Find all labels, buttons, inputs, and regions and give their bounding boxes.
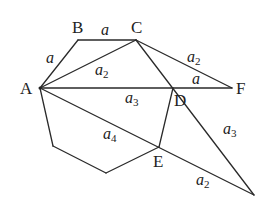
length-label-EG: a2 — [196, 171, 210, 190]
segment-A-H1 — [40, 88, 53, 146]
point-label-F: F — [236, 79, 245, 98]
length-label-DG: a3 — [223, 120, 237, 139]
point-label-B: B — [72, 18, 83, 37]
point-label-C: C — [131, 18, 142, 37]
point-label-E: E — [153, 152, 163, 171]
point-label-A: A — [20, 79, 33, 98]
length-label-AD: a3 — [125, 89, 139, 108]
length-label-AC: a2 — [95, 61, 109, 80]
length-label-AE: a4 — [103, 125, 117, 144]
segment-H2-E — [106, 147, 159, 173]
length-label-DF: a — [192, 70, 200, 87]
segment-AC — [40, 40, 136, 88]
length-label-BC: a — [101, 21, 109, 38]
length-label-CF: a2 — [187, 48, 201, 67]
vertex-A-dot — [39, 87, 42, 90]
point-label-D: D — [174, 91, 186, 110]
segment-CF — [136, 40, 232, 88]
segment-DE — [159, 88, 173, 147]
geometry-diagram: A B C D F E a a a2 a2 a a3 a4 a3 a2 — [0, 0, 262, 208]
segment-AG — [40, 88, 254, 195]
length-label-AB: a — [46, 49, 54, 66]
segment-H1-H2 — [53, 146, 106, 173]
